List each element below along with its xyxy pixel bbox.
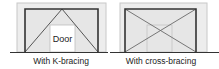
door-label: Door [53, 34, 73, 44]
caption-cross-bracing: With cross-bracing [126, 56, 197, 66]
bracing-diagram: Door With K-bracing With cross-bracing [0, 0, 219, 69]
panel-cross-bracing: With cross-bracing [110, 3, 219, 66]
panel-k-bracing: Door With K-bracing [10, 3, 108, 66]
caption-k-bracing: With K-bracing [33, 56, 89, 66]
